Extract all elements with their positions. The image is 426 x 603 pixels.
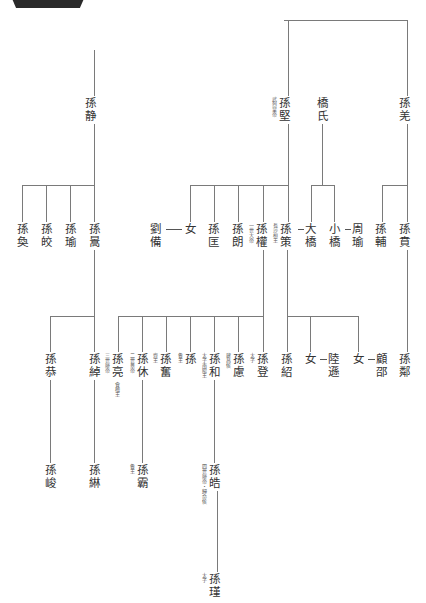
- connector-line: [142, 378, 143, 463]
- person-sun_quan: 孫權: [255, 222, 267, 250]
- connector-line: [190, 185, 288, 186]
- person-title-note: 會稽王: [114, 382, 120, 397]
- connector-line: [358, 316, 359, 352]
- person-sun_liang: 孫亮: [111, 352, 123, 380]
- person-nu3: 女: [352, 352, 364, 367]
- family-tree-diagram: 孫静孫堅武烈皇帝橋氏孫羌孫奐孫皎孫瑜孫暠劉備女孫匡孫朗孫權一世大帝孫策長沙桓王大…: [0, 0, 426, 603]
- connector-line: [142, 316, 143, 352]
- connector-line: [238, 185, 239, 222]
- person-sun_hao: 孫皓: [208, 463, 220, 491]
- person-gu_shao: 顧邵: [375, 352, 387, 380]
- connector-line: [334, 185, 335, 222]
- connector-line: [311, 185, 312, 222]
- person-sun_ce: 孫策: [279, 222, 291, 250]
- connector-line: [22, 185, 95, 186]
- person-sun_jin: 孫瑾: [208, 572, 220, 600]
- person-sun_fen: 孫奮: [159, 352, 171, 380]
- person-da_qiao: 大橋: [304, 222, 316, 250]
- connector-line: [287, 316, 358, 317]
- person-sun_gao: 孫暠: [88, 222, 100, 250]
- connector-line: [311, 185, 335, 186]
- connector-line: [46, 185, 47, 222]
- person-sun_jian: 孫堅: [278, 96, 290, 124]
- person-sun_ben: 孫賁: [398, 222, 410, 250]
- person-sun_lin2: 孫鄰: [398, 352, 410, 380]
- person-sun_deng: 孫登: [256, 352, 268, 380]
- person-sun_lu: 孫慮: [232, 352, 244, 380]
- connector-line: [166, 316, 167, 352]
- person-sun_he: 孫和: [208, 352, 220, 380]
- person-sun_hao2: 孫霸: [136, 463, 148, 491]
- person-title-note: 太子: [249, 353, 255, 363]
- title-badge: [10, 0, 86, 8]
- connector-line: [214, 185, 215, 222]
- person-title-note: 長沙桓王: [272, 223, 278, 243]
- connector-line: [190, 185, 191, 222]
- person-zhou_yu: 周瑜: [351, 222, 363, 250]
- connector-line: [287, 248, 288, 352]
- connector-line: [50, 378, 51, 463]
- connector-line: [322, 122, 323, 185]
- connector-line: [118, 316, 119, 352]
- connector-line: [190, 316, 191, 352]
- person-sun_jun: 孫峻: [44, 463, 56, 491]
- person-qiao: 橋氏: [316, 96, 328, 124]
- connector-line: [22, 185, 23, 222]
- person-sun_x: 孫: [184, 352, 196, 367]
- connector-line: [407, 248, 408, 352]
- connector-line: [94, 50, 95, 96]
- connector-line: [94, 248, 95, 352]
- person-title-note: 魯王: [129, 464, 135, 474]
- person-sun_fu: 孫輔: [374, 222, 386, 250]
- connector-line: [284, 20, 408, 21]
- person-title-note: 四世廢帝・歸命侯: [201, 464, 207, 504]
- person-title-note: 建昌侯: [225, 353, 231, 368]
- connector-line: [407, 122, 408, 222]
- connector-line: [70, 185, 71, 222]
- connector-line: [94, 122, 95, 185]
- person-title-note: 太子: [201, 573, 207, 583]
- person-title-note: 齊王: [152, 353, 158, 363]
- connector-line: [217, 489, 218, 572]
- person-sun_shao: 孫紹: [280, 352, 292, 380]
- connector-line: [407, 20, 408, 96]
- person-title-note: 武烈皇帝: [271, 97, 277, 117]
- person-liu_bei: 劉備: [149, 222, 161, 250]
- connector-line: [238, 316, 239, 352]
- person-lu_xun: 陸遜: [327, 352, 339, 380]
- person-sun_jiao: 孫皎: [40, 222, 52, 250]
- marriage-line: [166, 229, 182, 230]
- person-xiao_qiao: 小橋: [328, 222, 340, 250]
- connector-line: [50, 316, 94, 317]
- connector-line: [382, 185, 407, 186]
- person-nu2: 女: [304, 352, 316, 367]
- person-nu1: 女: [184, 222, 196, 237]
- person-title-note: 三世廢帝: [104, 353, 110, 373]
- person-sun_kuang: 孫匡: [207, 222, 219, 250]
- connector-line: [214, 378, 215, 463]
- person-title-note: 太子南陽王: [201, 353, 207, 378]
- person-title-note: 一世大帝: [248, 223, 254, 243]
- connector-line: [310, 316, 311, 352]
- connector-line: [288, 122, 289, 222]
- person-sun_huan: 孫奐: [16, 222, 28, 250]
- connector-line: [263, 185, 264, 222]
- person-sun_gong: 孫恭: [44, 352, 56, 380]
- connector-line: [94, 185, 95, 222]
- person-sun_lin: 孫綝: [88, 463, 100, 491]
- person-sun_chuo: 孫綽: [88, 352, 100, 380]
- connector-line: [214, 316, 215, 352]
- person-title-note: 二世景帝: [129, 353, 135, 373]
- person-sun_lang: 孫朗: [231, 222, 243, 250]
- person-sun_jing: 孫静: [84, 96, 96, 124]
- connector-line: [50, 316, 51, 352]
- person-title-note: 魯王: [177, 353, 183, 363]
- connector-line: [263, 248, 264, 352]
- connector-line: [288, 20, 289, 96]
- connector-line: [94, 378, 95, 463]
- person-sun_xiu: 孫休: [136, 352, 148, 380]
- person-sun_qiang: 孫羌: [398, 96, 410, 124]
- connector-line: [382, 185, 383, 222]
- person-sun_yu: 孫瑜: [64, 222, 76, 250]
